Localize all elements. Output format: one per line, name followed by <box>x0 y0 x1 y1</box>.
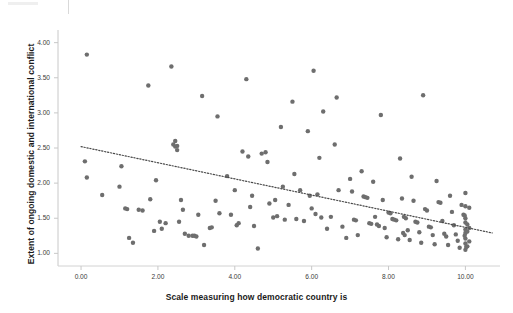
data-point <box>313 212 317 216</box>
data-point <box>294 217 298 221</box>
data-point <box>158 220 162 224</box>
data-point <box>432 242 436 246</box>
data-point <box>409 175 413 179</box>
data-point <box>417 230 421 234</box>
data-point <box>462 213 466 217</box>
data-point <box>467 206 471 210</box>
data-point <box>213 198 217 202</box>
data-point <box>186 234 190 238</box>
data-point <box>450 210 454 214</box>
data-point <box>267 201 271 205</box>
data-point <box>233 188 237 192</box>
data-point <box>404 216 408 220</box>
data-point <box>467 239 471 243</box>
data-point <box>383 226 387 230</box>
data-point <box>250 194 254 198</box>
data-point <box>411 198 415 202</box>
data-point <box>365 196 369 200</box>
data-point <box>140 208 144 212</box>
data-point <box>369 222 373 226</box>
axes-group <box>58 30 500 266</box>
data-point <box>377 224 381 228</box>
data-point <box>334 95 338 99</box>
data-point <box>229 213 233 217</box>
data-point <box>462 234 466 238</box>
data-point <box>394 218 398 222</box>
x-axis-title: Scale measuring how democratic country i… <box>0 292 513 302</box>
data-point <box>444 234 448 238</box>
x-tick-label: 4.00 <box>215 273 255 280</box>
data-point <box>371 180 375 184</box>
x-tick-label: 8.00 <box>369 273 409 280</box>
data-point <box>306 129 310 133</box>
data-point <box>175 148 179 152</box>
data-point <box>456 239 460 243</box>
data-point <box>448 194 452 198</box>
scatter-plot-figure: 1.001.502.002.503.003.504.00 0.002.004.0… <box>0 0 513 313</box>
x-tick-label: 2.00 <box>138 273 178 280</box>
data-point <box>85 52 89 56</box>
data-point <box>429 225 433 229</box>
data-point <box>210 225 214 229</box>
data-point <box>154 178 158 182</box>
data-point <box>321 109 325 113</box>
data-point <box>406 228 410 232</box>
data-point <box>457 246 461 250</box>
data-point <box>279 125 283 129</box>
data-point <box>333 142 337 146</box>
data-point <box>298 188 302 192</box>
data-point <box>359 169 363 173</box>
data-point <box>286 203 290 207</box>
data-point <box>400 196 404 200</box>
data-point <box>290 99 294 103</box>
data-point <box>183 231 187 235</box>
data-point <box>160 227 164 231</box>
data-point <box>85 175 89 179</box>
data-point <box>336 188 340 192</box>
data-point <box>463 204 467 208</box>
x-tick-marks <box>81 266 465 270</box>
data-point <box>148 197 152 201</box>
data-point <box>356 233 360 237</box>
data-point <box>175 144 179 148</box>
data-point <box>196 213 200 217</box>
data-point <box>137 208 141 212</box>
data-point <box>421 93 425 97</box>
data-point <box>398 156 402 160</box>
data-point <box>292 172 296 176</box>
data-point <box>179 198 183 202</box>
data-point <box>446 243 450 247</box>
data-point <box>181 208 185 212</box>
data-point <box>177 220 181 224</box>
data-point <box>319 215 323 219</box>
data-point <box>344 236 348 240</box>
data-point <box>244 77 248 81</box>
data-point <box>381 198 385 202</box>
data-point <box>379 113 383 117</box>
data-point <box>119 164 123 168</box>
data-point <box>127 236 131 240</box>
data-point <box>317 156 321 160</box>
data-point <box>200 94 204 98</box>
data-point <box>302 219 306 223</box>
data-point <box>194 234 198 238</box>
data-point <box>263 150 267 154</box>
data-point <box>384 235 388 239</box>
data-point <box>325 227 329 231</box>
plot-canvas <box>0 0 513 313</box>
data-point <box>146 83 150 87</box>
data-point <box>275 214 279 218</box>
data-point <box>260 151 264 155</box>
data-point <box>248 205 252 209</box>
data-points-group <box>83 52 472 252</box>
data-point <box>407 238 411 242</box>
data-point <box>117 184 121 188</box>
data-point <box>459 203 463 207</box>
data-point <box>438 201 442 205</box>
data-point <box>309 206 313 210</box>
data-point <box>354 218 358 222</box>
x-tick-label: 6.00 <box>292 273 332 280</box>
data-point <box>419 241 423 245</box>
data-point <box>415 220 419 224</box>
data-point <box>348 177 352 181</box>
